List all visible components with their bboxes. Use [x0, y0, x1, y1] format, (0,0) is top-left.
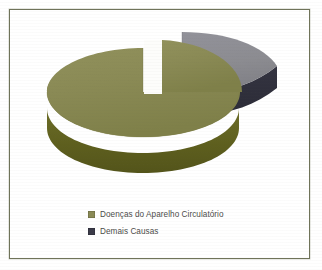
legend-label-demais-causas: Demais Causas	[100, 227, 158, 237]
legend-swatch-demais-causas	[88, 228, 95, 235]
legend-swatch-doencas-aparelho-circulatorio	[88, 211, 95, 218]
legend-item-doencas-aparelho-circulatorio[interactable]: Doenças do Aparelho Circulatório	[88, 206, 288, 223]
chart-area: Doenças do Aparelho Circulatório Demais …	[10, 10, 309, 258]
chart-legend: Doenças do Aparelho Circulatório Demais …	[88, 206, 288, 240]
pie-wedge-gap	[144, 40, 162, 94]
legend-item-demais-causas[interactable]: Demais Causas	[88, 223, 288, 240]
legend-label-doencas-aparelho-circulatorio: Doenças do Aparelho Circulatório	[100, 210, 224, 220]
pie-chart-screenshot: Doenças do Aparelho Circulatório Demais …	[0, 0, 322, 270]
pie-chart-graphic	[10, 10, 309, 200]
